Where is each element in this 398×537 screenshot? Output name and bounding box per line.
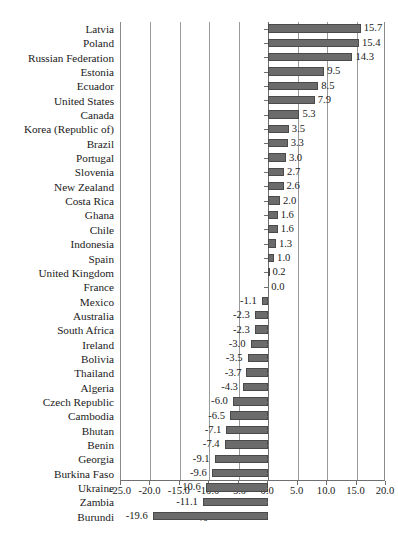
category-tick — [264, 387, 268, 388]
bar-value-label: -9.6 — [190, 466, 207, 480]
bar — [268, 82, 318, 90]
bar-value-label: -11.1 — [176, 495, 198, 509]
bar-row: -7.1 — [121, 424, 384, 438]
bar-value-label: -10.6 — [179, 480, 201, 494]
bar-value-label: 0.0 — [271, 280, 284, 294]
category-tick — [264, 158, 268, 159]
category-label: Indonesia — [0, 237, 118, 251]
category-label: Australia — [0, 309, 118, 323]
bar-row: -10.6 — [121, 481, 384, 495]
bar — [268, 211, 277, 219]
category-label: Algeria — [0, 381, 118, 395]
bar — [268, 182, 283, 190]
bar-value-label: 1.6 — [281, 222, 294, 236]
bar-value-label: -6.5 — [208, 409, 225, 423]
bar-chart: LatviaPolandRussian FederationEstoniaEcu… — [0, 0, 398, 537]
bar — [268, 110, 299, 118]
category-tick — [264, 215, 268, 216]
category-tick — [264, 416, 268, 417]
category-tick — [264, 402, 268, 403]
category-tick — [264, 344, 268, 345]
bar-value-label: 7.9 — [318, 93, 331, 107]
bar-row: 9.5 — [121, 65, 384, 79]
bar — [268, 268, 270, 276]
category-label: United Kingdom — [0, 266, 118, 280]
category-label: Costa Rica — [0, 194, 118, 208]
bar-row: 1.6 — [121, 223, 384, 237]
bar-row: -4.3 — [121, 381, 384, 395]
bar-value-label: -4.3 — [221, 380, 238, 394]
bar-value-label: 5.3 — [302, 107, 315, 121]
bar-row: -11.1 — [121, 495, 384, 509]
category-tick — [264, 272, 268, 273]
category-tick — [264, 258, 268, 259]
bar — [268, 239, 276, 247]
bar-value-label: 1.3 — [279, 237, 292, 251]
category-label: Spain — [0, 252, 118, 266]
category-tick — [264, 301, 268, 302]
category-label: Czech Republic — [0, 395, 118, 409]
category-tick — [264, 330, 268, 331]
category-label: Portugal — [0, 151, 118, 165]
bar-row: 15.7 — [121, 22, 384, 36]
category-tick — [264, 430, 268, 431]
category-tick — [264, 244, 268, 245]
bar-row: 0.2 — [121, 266, 384, 280]
bar-value-label: -3.7 — [225, 366, 242, 380]
bar-value-label: -1.1 — [240, 294, 257, 308]
bar-value-label: -7.1 — [205, 423, 222, 437]
category-tick — [264, 287, 268, 288]
category-label: Chile — [0, 223, 118, 237]
category-tick — [264, 115, 268, 116]
bar — [233, 397, 268, 405]
bar — [225, 440, 269, 448]
bar-row: 3.5 — [121, 122, 384, 136]
bar — [268, 96, 315, 104]
bar-row: -9.1 — [121, 452, 384, 466]
bar-row: -6.5 — [121, 409, 384, 423]
category-label: Estonia — [0, 65, 118, 79]
bar-value-label: -7.4 — [203, 437, 220, 451]
bar-row: -9.6 — [121, 467, 384, 481]
category-label: Slovenia — [0, 165, 118, 179]
category-tick — [264, 72, 268, 73]
bar-value-label: 3.0 — [289, 151, 302, 165]
bar — [268, 254, 274, 262]
bar-row: -2.3 — [121, 309, 384, 323]
bar — [226, 426, 268, 434]
bar — [268, 139, 287, 147]
category-label: Georgia — [0, 452, 118, 466]
bar-row: 0.0 — [121, 280, 384, 294]
category-tick — [264, 459, 268, 460]
bar — [215, 455, 269, 463]
bar — [212, 469, 269, 477]
category-tick — [264, 502, 268, 503]
bar-value-label: 1.6 — [281, 208, 294, 222]
category-axis-labels: LatviaPolandRussian FederationEstoniaEcu… — [0, 22, 118, 524]
bar-value-label: 9.5 — [327, 64, 340, 78]
bar-value-label: 15.4 — [362, 36, 381, 50]
bar-row: -19.6 — [121, 510, 384, 524]
category-label: Ghana — [0, 208, 118, 222]
bar-row: -2.3 — [121, 323, 384, 337]
category-tick — [264, 373, 268, 374]
category-tick — [264, 86, 268, 87]
bar — [203, 498, 268, 506]
bar-value-label: 2.6 — [287, 179, 300, 193]
bar-value-label: 2.7 — [287, 165, 300, 179]
bar-row: 2.6 — [121, 180, 384, 194]
category-label: Latvia — [0, 22, 118, 36]
category-label: France — [0, 280, 118, 294]
bar — [268, 225, 277, 233]
bar-value-label: 14.3 — [355, 50, 374, 64]
category-tick — [264, 488, 268, 489]
bar-row: -7.4 — [121, 438, 384, 452]
category-label: Bolivia — [0, 352, 118, 366]
bar-row: -3.0 — [121, 338, 384, 352]
bar — [268, 196, 280, 204]
category-tick — [264, 315, 268, 316]
category-tick — [264, 29, 268, 30]
category-label: Korea (Republic of) — [0, 122, 118, 136]
bar-row: 1.0 — [121, 252, 384, 266]
bar-row: -3.7 — [121, 366, 384, 380]
